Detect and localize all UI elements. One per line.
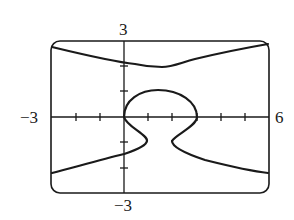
curve-lower-left-branch <box>52 117 147 173</box>
curve-lower-right-branch <box>172 141 268 173</box>
curve-upper-branch <box>52 44 268 67</box>
x-min-label: −3 <box>20 109 38 126</box>
x-max-label: 6 <box>275 109 284 126</box>
y-min-label: −3 <box>114 197 132 214</box>
graph <box>0 0 294 220</box>
y-max-label: 3 <box>119 21 128 38</box>
curve-loop <box>124 90 197 141</box>
